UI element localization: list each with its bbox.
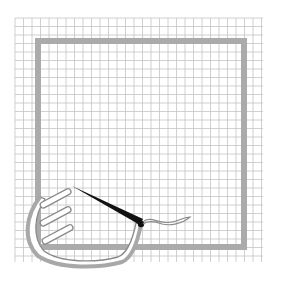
thread-icon bbox=[143, 217, 190, 225]
hand-icon bbox=[28, 188, 141, 267]
grid-paper-illustration bbox=[0, 0, 286, 283]
square-frame bbox=[38, 41, 244, 247]
